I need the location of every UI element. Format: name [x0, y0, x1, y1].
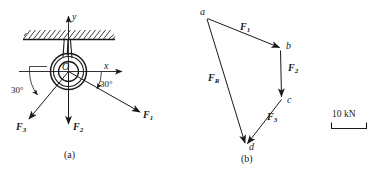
force-base: F	[143, 109, 150, 120]
panel-b-caption: (b)	[241, 154, 253, 164]
force-subscript: 2	[295, 67, 299, 75]
figure-container: x y O 30° 30° F1 F2 F3 (a) a b c d F1 F2…	[0, 0, 383, 174]
force-label-f2-panel-a: F2	[73, 122, 83, 134]
force-f1-arrow	[69, 72, 141, 113]
polygon-vertex-a: a	[200, 7, 205, 17]
ring-center-label: O	[62, 62, 69, 72]
axis-label-x: x	[104, 61, 108, 71]
scale-bar-bracket	[331, 123, 367, 129]
force-subscript: 2	[80, 126, 84, 134]
ceiling-support	[23, 30, 115, 40]
polygon-side-f2	[281, 51, 282, 97]
force-base: F	[240, 21, 247, 32]
force-base: F	[288, 62, 295, 73]
polygon-vertex-d: d	[249, 142, 254, 152]
force-label-resultant-panel-b: FR	[208, 73, 220, 85]
polygon-vertex-c: c	[287, 95, 291, 105]
figure-drawing	[0, 0, 383, 174]
force-subscript: R	[215, 77, 220, 85]
angle-arc-left	[30, 67, 48, 96]
force-label-f1-panel-a: F1	[143, 110, 153, 122]
panel-a-caption: (a)	[64, 150, 75, 160]
force-subscript: 1	[247, 26, 251, 34]
force-subscript: 1	[150, 114, 154, 122]
polygon-vertex-b: b	[286, 41, 291, 51]
force-base: F	[16, 121, 23, 132]
scale-bar-label: 10 kN	[332, 110, 356, 120]
force-subscript: 3	[23, 126, 27, 134]
hanger-rod	[63, 40, 72, 59]
force-label-f2-panel-b: F2	[288, 63, 298, 75]
force-label-f3-panel-a: F3	[16, 122, 26, 134]
force-f3-arrow	[29, 72, 69, 120]
angle-label-right: 30°	[100, 80, 113, 89]
force-base: F	[73, 121, 80, 132]
force-subscript: 3	[274, 116, 278, 124]
force-base: F	[267, 111, 274, 122]
angle-label-left: 30°	[11, 86, 24, 95]
force-label-f1-panel-b: F1	[240, 22, 250, 34]
force-base: F	[208, 72, 215, 83]
axis-label-y: y	[72, 12, 76, 22]
force-label-f3-panel-b: F3	[267, 112, 277, 124]
